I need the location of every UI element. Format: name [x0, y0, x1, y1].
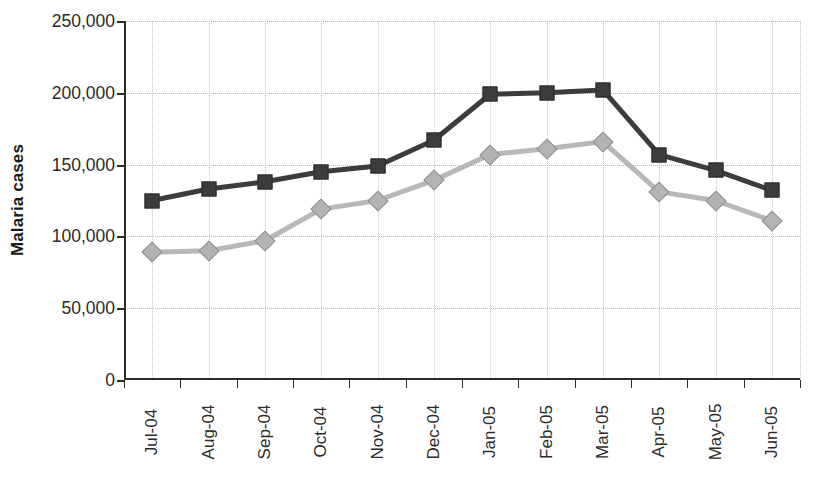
- x-tick-label-text: Sep-04: [255, 405, 275, 460]
- y-tickmark: [117, 308, 124, 310]
- x-tick-label-text: Aug-04: [199, 405, 219, 460]
- y-tick-label: 150,000: [15, 154, 115, 175]
- x-tick-label: Oct-04: [314, 388, 328, 484]
- data-point-marker: [314, 164, 329, 179]
- y-tick-label: 200,000: [15, 82, 115, 103]
- x-tick-label: Jul-04: [145, 388, 159, 484]
- x-tick-label: May-05: [709, 388, 723, 484]
- data-point-marker: [708, 163, 723, 178]
- x-tick-label-text: Jan-05: [480, 406, 500, 458]
- data-point-marker: [201, 182, 216, 197]
- x-tick-label-text: Mar-05: [593, 405, 613, 459]
- series-line-square: [152, 90, 772, 201]
- x-tickmark: [180, 380, 181, 388]
- x-tickmark: [800, 380, 801, 388]
- y-tickmark: [117, 165, 124, 167]
- x-tick-label: Nov-04: [371, 388, 385, 484]
- data-point-marker: [483, 87, 498, 102]
- data-point-marker: [426, 133, 441, 148]
- x-tickmark: [124, 380, 125, 388]
- x-tickmark: [293, 380, 294, 388]
- data-point-marker: [539, 85, 554, 100]
- x-tick-label: Feb-05: [540, 388, 554, 484]
- x-tickmark: [744, 380, 745, 388]
- y-tickmark: [117, 236, 124, 238]
- y-tickmark: [117, 380, 124, 382]
- x-tickmark: [631, 380, 632, 388]
- y-tick-label: 250,000: [15, 11, 115, 32]
- y-axis-tick-labels: 050,000100,000150,000200,000250,000: [10, 0, 115, 488]
- x-tick-label: Aug-04: [202, 388, 216, 484]
- x-tickmark: [237, 380, 238, 388]
- data-point-marker: [257, 174, 272, 189]
- data-point-marker: [370, 159, 385, 174]
- plot-area: [124, 21, 800, 380]
- x-tickmark: [687, 380, 688, 388]
- malaria-cases-line-chart: Malaria cases 050,000100,000150,000200,0…: [0, 0, 817, 488]
- x-tickmark: [462, 380, 463, 388]
- x-tick-label: Jan-05: [483, 388, 497, 484]
- x-tick-label-text: Dec-04: [424, 405, 444, 460]
- data-point-marker: [145, 193, 160, 208]
- x-tickmark: [575, 380, 576, 388]
- x-tick-label: Mar-05: [596, 388, 610, 484]
- x-tick-label-text: Jul-04: [142, 409, 162, 455]
- y-tick-label: 0: [15, 370, 115, 391]
- y-tick-label: 100,000: [15, 226, 115, 247]
- x-tick-label: Apr-05: [652, 388, 666, 484]
- x-tick-label-text: May-05: [706, 404, 726, 461]
- x-tick-label: Dec-04: [427, 388, 441, 484]
- data-point-marker: [652, 147, 667, 162]
- data-point-marker: [595, 82, 610, 97]
- x-tick-label-text: Feb-05: [537, 405, 557, 459]
- x-tick-label-text: Apr-05: [649, 406, 669, 457]
- data-point-marker: [764, 183, 779, 198]
- x-tick-label: Jun-05: [765, 388, 779, 484]
- x-tick-label-text: Jun-05: [762, 406, 782, 458]
- y-tickmark: [117, 93, 124, 95]
- x-tick-label-text: Nov-04: [368, 405, 388, 460]
- x-tickmark: [518, 380, 519, 388]
- x-tickmark: [406, 380, 407, 388]
- series-lines: [124, 21, 800, 380]
- x-tickmark: [349, 380, 350, 388]
- y-tickmark: [117, 21, 124, 23]
- x-tick-label-text: Oct-04: [311, 406, 331, 457]
- plot-right-edge: [800, 21, 801, 380]
- x-tick-label: Sep-04: [258, 388, 272, 484]
- y-tick-label: 50,000: [15, 298, 115, 319]
- x-axis-tick-labels: Jul-04Aug-04Sep-04Oct-04Nov-04Dec-04Jan-…: [124, 388, 800, 488]
